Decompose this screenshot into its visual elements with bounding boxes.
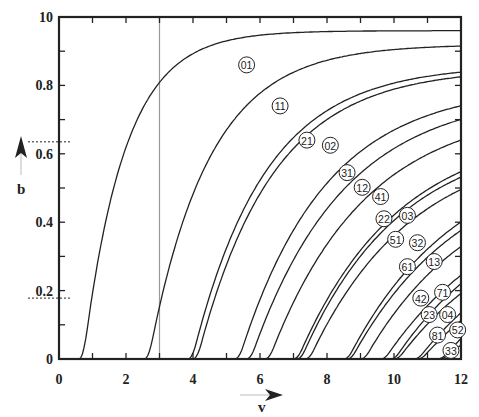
reference-lines <box>28 17 160 359</box>
curve-label-21: 21 <box>299 132 315 148</box>
x-tick-label: 12 <box>454 372 468 387</box>
svg-text:81: 81 <box>432 330 444 342</box>
svg-text:02: 02 <box>325 140 337 152</box>
x-tick-label: 8 <box>324 372 331 387</box>
svg-text:03: 03 <box>402 210 414 222</box>
svg-text:31: 31 <box>341 167 353 179</box>
svg-text:04: 04 <box>442 309 454 321</box>
curve-label-33: 33 <box>443 342 459 358</box>
svg-text:01: 01 <box>241 59 253 71</box>
x-tick-label: 0 <box>56 372 63 387</box>
y-tick-label: 0.2 <box>36 284 54 299</box>
svg-text:52: 52 <box>452 324 464 336</box>
curve-label-61: 61 <box>399 259 415 275</box>
curve-41 <box>265 140 461 359</box>
y-tick-label: 0.6 <box>36 147 54 162</box>
curve-label-32: 32 <box>409 235 425 251</box>
curve-label-52: 52 <box>450 322 466 338</box>
x-axis-label: v <box>258 399 266 415</box>
svg-text:21: 21 <box>301 135 313 147</box>
plot-frame <box>59 17 461 359</box>
curve-label-41: 41 <box>373 189 389 205</box>
svg-text:51: 51 <box>390 234 402 246</box>
y-tick-label: 0.8 <box>36 78 54 93</box>
y-tick-label: 0 <box>46 352 53 367</box>
svg-text:23: 23 <box>423 309 435 321</box>
curve-label-13: 13 <box>426 254 442 270</box>
curve-label-31: 31 <box>339 165 355 181</box>
svg-text:61: 61 <box>402 261 414 273</box>
curve-label-12: 12 <box>354 179 370 195</box>
svg-text:13: 13 <box>428 256 440 268</box>
curve-label-42: 42 <box>413 290 429 306</box>
svg-text:22: 22 <box>378 213 390 225</box>
x-tick-label: 6 <box>257 372 264 387</box>
curve-label-04: 04 <box>440 307 456 323</box>
curve-label-01: 01 <box>239 57 255 73</box>
curve-label-51: 51 <box>388 231 404 247</box>
curve-label-02: 02 <box>322 137 338 153</box>
x-tick-label: 10 <box>387 372 401 387</box>
curve-label-11: 11 <box>272 98 288 114</box>
y-axis-label: b <box>17 181 25 197</box>
curve-label-03: 03 <box>399 207 415 223</box>
chart: 02468101200.20.40.60.810 011121023112412… <box>0 0 479 417</box>
svg-text:71: 71 <box>437 287 449 299</box>
curve-21 <box>188 72 461 359</box>
curve-label-71: 71 <box>435 284 451 300</box>
curve-labels: 0111210231124122035132611342712304815233 <box>239 57 466 359</box>
curve-group <box>79 31 461 359</box>
curve-label-81: 81 <box>430 327 446 343</box>
curve-label-22: 22 <box>376 211 392 227</box>
svg-text:32: 32 <box>412 237 424 249</box>
svg-text:12: 12 <box>356 182 368 194</box>
y-axis-arrow-icon <box>15 136 27 175</box>
x-tick-label: 4 <box>190 372 197 387</box>
x-tick-label: 2 <box>123 372 130 387</box>
svg-text:42: 42 <box>415 293 427 305</box>
curve-02 <box>193 77 461 359</box>
svg-text:11: 11 <box>275 100 286 112</box>
curve-label-23: 23 <box>421 307 437 323</box>
curve-11 <box>144 46 461 359</box>
y-tick-label: 10 <box>39 10 53 25</box>
svg-text:33: 33 <box>445 345 457 357</box>
y-tick-label: 0.4 <box>36 215 54 230</box>
svg-text:41: 41 <box>375 191 387 203</box>
